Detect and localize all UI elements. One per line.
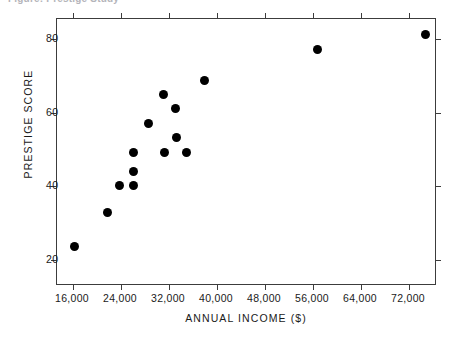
- y-axis-tick-label: 40: [46, 179, 58, 191]
- x-axis-tick-top: [217, 13, 218, 19]
- scatter-plot-figure: Figure: Prestige Study PRESTIGE SCORE AN…: [0, 0, 450, 339]
- x-axis-tick-label: 16,000: [55, 292, 89, 304]
- x-axis-tick-label: 24,000: [103, 292, 137, 304]
- x-axis-tick: [265, 284, 266, 290]
- x-axis-tick-label: 48,000: [247, 292, 281, 304]
- x-axis-tick: [121, 284, 122, 290]
- plot-area: [56, 18, 436, 285]
- y-axis-tick-right: [435, 39, 441, 40]
- x-axis-tick-label: 64,000: [343, 292, 377, 304]
- x-axis-tick-label: 56,000: [295, 292, 329, 304]
- x-axis-tick-label: 72,000: [391, 292, 425, 304]
- x-axis-tick: [169, 284, 170, 290]
- data-point: [129, 167, 138, 176]
- data-point: [182, 148, 191, 157]
- y-axis-title: PRESTIGE SCORE: [22, 24, 34, 224]
- x-axis-tick-top: [313, 13, 314, 19]
- data-point: [144, 119, 153, 128]
- data-point: [115, 181, 124, 190]
- x-axis-tick: [73, 284, 74, 290]
- y-axis-tick-right: [435, 260, 441, 261]
- x-axis-tick: [217, 284, 218, 290]
- data-point: [160, 148, 169, 157]
- x-axis-tick-label: 40,000: [199, 292, 233, 304]
- data-point: [70, 242, 79, 251]
- data-point: [159, 90, 168, 99]
- x-axis-title: ANNUAL INCOME ($): [56, 312, 436, 324]
- data-point: [171, 104, 180, 113]
- x-axis-tick: [409, 284, 410, 290]
- x-axis-tick-top: [169, 13, 170, 19]
- y-axis-tick-right: [435, 113, 441, 114]
- x-axis-tick-top: [361, 13, 362, 19]
- x-axis-tick: [313, 284, 314, 290]
- y-axis-tick-right: [435, 186, 441, 187]
- data-point: [200, 76, 209, 85]
- figure-caption: Figure: Prestige Study: [8, 0, 308, 5]
- x-axis-tick-label: 32,000: [151, 292, 185, 304]
- y-axis-tick-label: 20: [46, 253, 58, 265]
- x-axis-tick-top: [73, 13, 74, 19]
- data-point: [103, 208, 112, 217]
- data-point: [129, 148, 138, 157]
- x-axis-tick: [361, 284, 362, 290]
- y-axis-tick-label: 80: [46, 32, 58, 44]
- data-point: [313, 45, 322, 54]
- x-axis-tick-top: [409, 13, 410, 19]
- x-axis-tick-top: [121, 13, 122, 19]
- data-point: [172, 133, 181, 142]
- data-point: [421, 30, 430, 39]
- x-axis-tick-top: [265, 13, 266, 19]
- data-point: [129, 181, 138, 190]
- y-axis-tick-label: 60: [46, 106, 58, 118]
